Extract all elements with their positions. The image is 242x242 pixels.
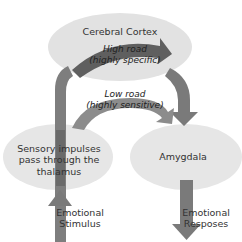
- amygdala-pathway-diagram: Cerebral Cortex High road (highly specif…: [0, 0, 242, 242]
- stimulus-line: Emotional: [35, 207, 125, 218]
- low-road-subtitle: (highly sensitive): [80, 100, 170, 111]
- cerebral-cortex-label: Cerebral Cortex: [60, 26, 180, 37]
- low-road-title: Low road: [80, 89, 170, 100]
- thalamus-label-line: pass through the: [4, 154, 114, 165]
- responses-line: Emotional: [168, 207, 242, 218]
- thalamus-label: Sensory impulses pass through the thalam…: [4, 143, 114, 177]
- high-road-title: High road: [80, 44, 170, 55]
- low-road-label: Low road (highly sensitive): [80, 89, 170, 111]
- thalamus-label-line: Sensory impulses: [4, 143, 114, 154]
- high-road-label: High road (highly specific): [80, 44, 170, 66]
- emotional-responses-label: Emotional Resposes: [168, 207, 242, 230]
- emotional-stimulus-label: Emotional Stimulus: [35, 207, 125, 230]
- thalamus-label-line: thalamus: [4, 166, 114, 177]
- stimulus-line: Stimulus: [35, 218, 125, 229]
- amygdala-label: Amygdala: [130, 151, 236, 162]
- high-road-subtitle: (highly specific): [80, 55, 170, 66]
- responses-line: Resposes: [168, 218, 242, 229]
